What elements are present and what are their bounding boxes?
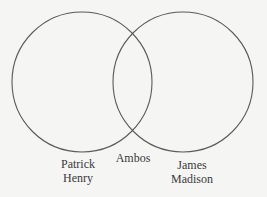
- set-label-james-madison: James Madison: [164, 158, 220, 186]
- set-label-line: Madison: [164, 172, 220, 186]
- intersection-label: Ambos: [112, 151, 154, 165]
- set-label-patrick-henry: Patrick Henry: [52, 157, 104, 185]
- circle-james-madison: [113, 12, 253, 152]
- intersection-label-text: Ambos: [112, 151, 154, 165]
- set-label-line: Henry: [52, 171, 104, 185]
- venn-circles: [0, 0, 267, 197]
- circle-patrick-henry: [12, 12, 152, 152]
- set-label-line: James: [164, 158, 220, 172]
- venn-diagram: Patrick Henry Ambos James Madison: [0, 0, 267, 197]
- set-label-line: Patrick: [52, 157, 104, 171]
